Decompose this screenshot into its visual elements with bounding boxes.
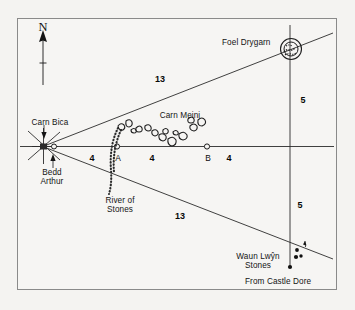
carn-meini-stone-scatter xyxy=(118,117,206,146)
label-river-of-stones-line2: Stones xyxy=(107,205,133,214)
label-bedd-arthur-line2: Arthur xyxy=(41,177,64,186)
waun-lwyn-stone-dots xyxy=(294,241,307,259)
distance-horizontal-1: 4 xyxy=(89,153,94,163)
distance-vertical-upper: 5 xyxy=(300,95,305,105)
north-arrow-icon xyxy=(39,30,47,85)
label-point-a: A xyxy=(115,153,121,163)
label-river-of-stones-line1: River of xyxy=(105,196,134,205)
distance-horizontal-3: 4 xyxy=(226,153,231,163)
compass-north-label: N xyxy=(38,20,47,35)
point-b-marker xyxy=(204,144,209,149)
carn-bica-star-marker xyxy=(40,144,47,150)
label-point-b: B xyxy=(205,153,211,163)
label-foel-drygarn: Foel Drygarn xyxy=(222,38,271,47)
bedd-arthur-marker xyxy=(52,144,57,149)
alignment-map-figure: N Carn Bica Bedd Arthur Foel Drygarn Car… xyxy=(0,0,355,310)
map-vector-layer xyxy=(0,0,355,310)
castle-dore-terminus-dot xyxy=(288,265,292,269)
label-carn-meini: Carn Meini xyxy=(160,111,201,120)
label-waun-lwyn-line1: Waun Lwŷn xyxy=(236,252,279,261)
label-bedd-arthur-line1: Bedd xyxy=(42,168,62,177)
label-from-castle-dore: From Castle Dore xyxy=(245,277,311,286)
label-carn-bica: Carn Bica xyxy=(32,118,69,127)
distance-lower-diagonal: 13 xyxy=(175,211,185,221)
distance-horizontal-2: 4 xyxy=(149,153,154,163)
distance-upper-diagonal: 13 xyxy=(155,74,165,84)
label-waun-lwyn-line2: Stones xyxy=(245,261,271,270)
distance-vertical-lower: 5 xyxy=(297,200,302,210)
bedd-arthur-leader-arrow xyxy=(50,154,55,168)
